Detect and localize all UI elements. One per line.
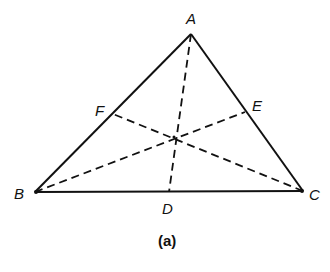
label-a: A bbox=[185, 10, 196, 27]
vertex-c-marker bbox=[300, 189, 304, 193]
edge-ca bbox=[191, 34, 303, 191]
figure-caption: (a) bbox=[158, 232, 176, 249]
edge-ab bbox=[35, 34, 191, 192]
label-d: D bbox=[162, 200, 173, 217]
label-c: C bbox=[309, 186, 320, 203]
label-f: F bbox=[95, 102, 105, 119]
label-e: E bbox=[252, 97, 263, 114]
vertex-b-marker bbox=[34, 190, 38, 194]
median-ad bbox=[169, 34, 191, 192]
centroid-point bbox=[173, 136, 176, 139]
triangle-medians-diagram: A B C D E F (a) bbox=[0, 0, 330, 272]
label-b: B bbox=[14, 185, 24, 202]
triangle-edges bbox=[35, 34, 303, 192]
